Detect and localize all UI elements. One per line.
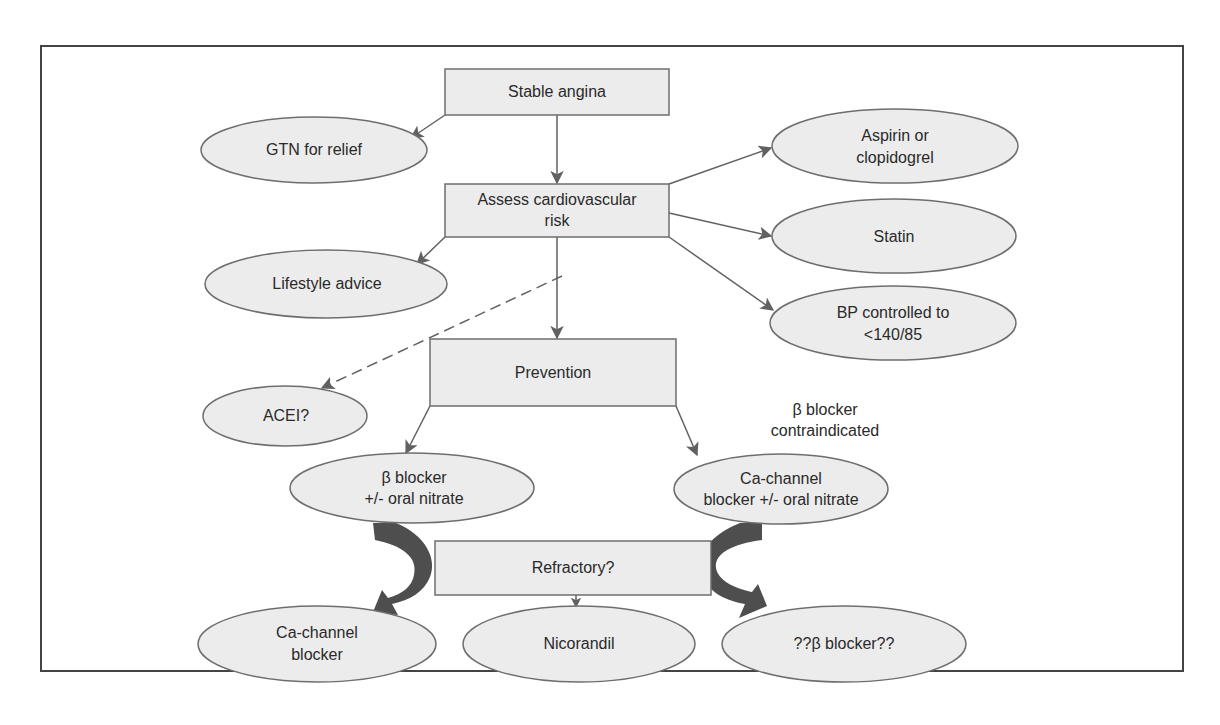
svg-text:+/- oral nitrate: +/- oral nitrate: [364, 490, 463, 507]
annotation-line2: contraindicated: [771, 422, 880, 439]
svg-text:Aspirin or: Aspirin or: [861, 127, 929, 144]
svg-text:ACEI?: ACEI?: [263, 407, 309, 424]
node-label-line1: BP controlled to: [837, 304, 950, 321]
node-aspirin-or-clopidogrel: Aspirin or clopidogrel: [772, 109, 1018, 183]
node-stable-angina: Stable angina: [445, 69, 669, 115]
node-label: GTN for relief: [266, 141, 363, 158]
node-label: Lifestyle advice: [272, 275, 381, 292]
node-label: Stable angina: [508, 83, 606, 100]
node-label-line2: blocker +/- oral nitrate: [703, 491, 858, 508]
svg-text:Stable angina: Stable angina: [508, 83, 606, 100]
svg-text:Prevention: Prevention: [515, 364, 592, 381]
svg-text:contraindicated: contraindicated: [771, 422, 880, 439]
node-label: ACEI?: [263, 407, 309, 424]
node-label-line2: risk: [545, 212, 571, 229]
node-refractory: Refractory?: [435, 541, 711, 595]
node-label: Nicorandil: [543, 635, 614, 652]
node-label-line2: <140/85: [864, 326, 922, 343]
node-beta-blocker-oral-nitrate: β blocker +/- oral nitrate: [290, 453, 534, 523]
node-label: Prevention: [515, 364, 592, 381]
node-beta-blocker-questioned: ??β blocker??: [722, 606, 966, 682]
svg-text:Ca-channel: Ca-channel: [740, 470, 822, 487]
svg-text:Refractory?: Refractory?: [532, 559, 615, 576]
svg-text:blocker +/- oral nitrate: blocker +/- oral nitrate: [703, 491, 858, 508]
svg-text:Nicorandil: Nicorandil: [543, 635, 614, 652]
svg-text:blocker: blocker: [291, 646, 343, 663]
node-gtn-for-relief: GTN for relief: [201, 117, 427, 183]
annotation-line1: β blocker: [792, 401, 858, 418]
node-lifestyle-advice: Lifestyle advice: [205, 250, 447, 318]
svg-text:Statin: Statin: [874, 228, 915, 245]
svg-text:??β blocker??: ??β blocker??: [794, 635, 895, 652]
stable-angina-flowchart: Stable angina Assess cardiovascular risk…: [0, 0, 1220, 725]
node-assess-cardiovascular-risk: Assess cardiovascular risk: [445, 184, 669, 237]
node-ca-channel-blocker: Ca-channel blocker: [198, 606, 436, 682]
node-acei: ACEI?: [203, 386, 367, 446]
figure-caption-cutoff: [40, 716, 1190, 725]
node-prevention: Prevention: [430, 339, 676, 406]
node-label-line1: β blocker: [381, 469, 447, 486]
svg-text:risk: risk: [545, 212, 571, 229]
svg-text:GTN for relief: GTN for relief: [266, 141, 363, 158]
node-label-line1: Aspirin or: [861, 127, 929, 144]
node-label-line1: Ca-channel: [276, 624, 358, 641]
svg-text:Lifestyle advice: Lifestyle advice: [272, 275, 381, 292]
node-label: Refractory?: [532, 559, 615, 576]
node-label-line2: clopidogrel: [856, 149, 933, 166]
node-bp-controlled: BP controlled to <140/85: [770, 286, 1016, 360]
svg-text:β blocker: β blocker: [792, 401, 858, 418]
svg-text:BP controlled to: BP controlled to: [837, 304, 950, 321]
node-label: ??β blocker??: [794, 635, 895, 652]
svg-text:<140/85: <140/85: [864, 326, 922, 343]
node-label-line1: Ca-channel: [740, 470, 822, 487]
svg-text:clopidogrel: clopidogrel: [856, 149, 933, 166]
svg-text:Assess cardiovascular: Assess cardiovascular: [477, 191, 637, 208]
node-label-line1: Assess cardiovascular: [477, 191, 637, 208]
node-nicorandil: Nicorandil: [463, 606, 695, 682]
node-label: Statin: [874, 228, 915, 245]
node-statin: Statin: [772, 199, 1016, 273]
svg-text:Ca-channel: Ca-channel: [276, 624, 358, 641]
node-label-line2: blocker: [291, 646, 343, 663]
svg-text:β blocker: β blocker: [381, 469, 447, 486]
node-ca-channel-blocker-oral-nitrate: Ca-channel blocker +/- oral nitrate: [674, 454, 888, 524]
node-label-line2: +/- oral nitrate: [364, 490, 463, 507]
